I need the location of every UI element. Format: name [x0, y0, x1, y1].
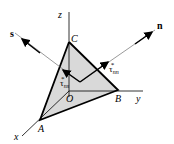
point-a-label: A	[37, 123, 45, 134]
s-axis-label: s	[10, 28, 14, 39]
point-b-label: B	[115, 93, 121, 104]
origin-o-label: O	[66, 93, 73, 104]
x-axis	[22, 91, 69, 136]
n-arrow	[135, 32, 152, 44]
s-arrow	[22, 39, 40, 53]
y-label: y	[135, 93, 141, 104]
n-axis-label: n	[157, 20, 163, 31]
z-label: z	[57, 9, 62, 20]
stress-element-diagram: z y x C B A O s n τns* τnn*	[0, 0, 174, 144]
point-c-label: C	[71, 33, 78, 44]
tau-nn-label: τnn*	[109, 61, 119, 75]
x-label: x	[13, 131, 19, 142]
